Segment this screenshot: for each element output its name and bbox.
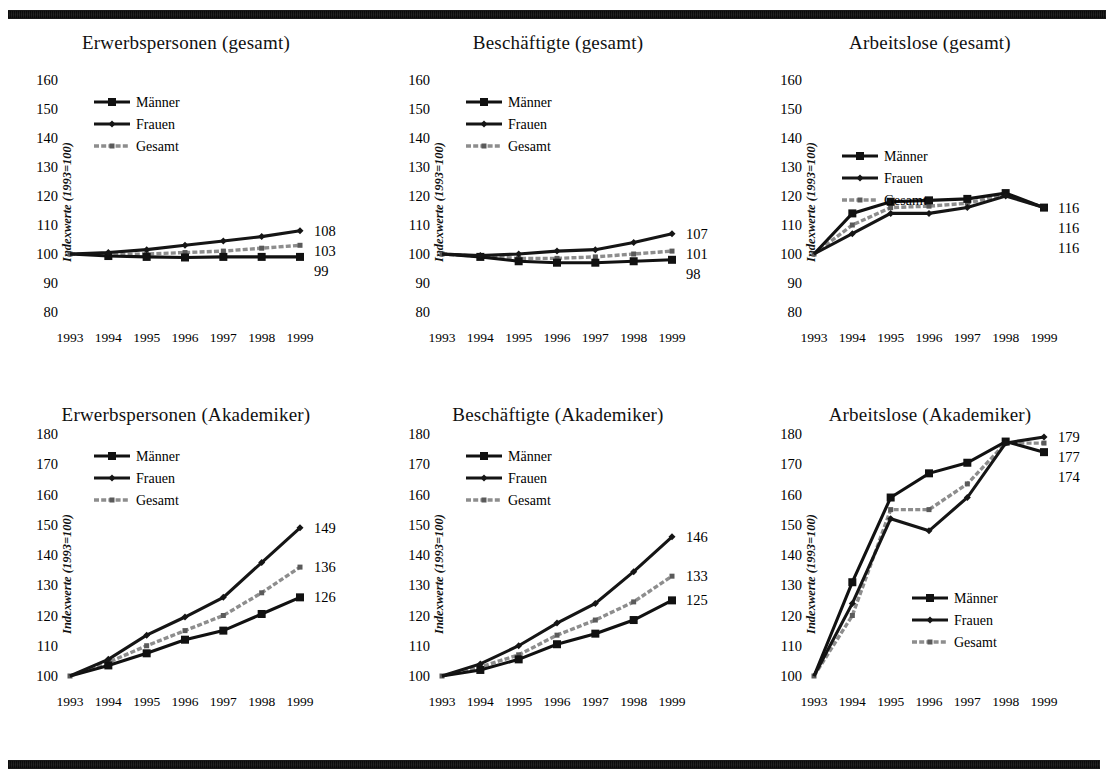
series-end-label: 116 — [1058, 200, 1079, 216]
data-point-marker — [221, 249, 226, 254]
x-tick-label: 1993 — [801, 330, 828, 345]
legend-swatch-marker — [110, 498, 115, 503]
y-tick-label: 120 — [408, 608, 430, 624]
y-tick-label: 140 — [780, 130, 802, 146]
legend-item-total[interactable]: Gesamt — [912, 635, 997, 650]
legend-swatch-marker — [927, 617, 934, 624]
data-point-marker — [515, 655, 523, 663]
series-end-label: 107 — [686, 226, 708, 242]
y-tick-label: 100 — [36, 668, 58, 684]
data-point-marker — [143, 253, 151, 261]
data-point-marker — [143, 649, 151, 657]
y-tick-label: 120 — [36, 608, 58, 624]
legend-item-women[interactable]: Frauen — [842, 171, 923, 186]
x-tick-label: 1994 — [839, 694, 866, 709]
data-point-marker — [221, 613, 226, 618]
legend-item-women[interactable]: Frauen — [466, 471, 547, 486]
legend-label-men: Männer — [508, 449, 552, 464]
y-tick-label: 120 — [408, 188, 430, 204]
data-point-marker — [888, 507, 893, 512]
x-tick-label: 1994 — [467, 330, 494, 345]
data-point-marker — [181, 253, 189, 261]
legend-item-total[interactable]: Gesamt — [842, 193, 927, 208]
x-tick-label: 1993 — [429, 694, 456, 709]
legend-item-total[interactable]: Gesamt — [466, 139, 551, 154]
y-tick-label: 110 — [781, 638, 802, 654]
y-tick-label: 140 — [780, 547, 802, 563]
legend-swatch-marker — [108, 452, 116, 460]
series-end-label: 116 — [1058, 240, 1079, 256]
legend-label-women: Frauen — [136, 471, 175, 486]
y-tick-label: 100 — [36, 246, 58, 262]
data-point-marker — [887, 494, 895, 502]
legend-item-women[interactable]: Frauen — [912, 613, 993, 628]
x-tick-label: 1999 — [287, 694, 314, 709]
series-end-label: 98 — [686, 266, 701, 282]
data-point-marker — [926, 210, 933, 217]
chart-legend: MännerFrauenGesamt — [94, 449, 180, 508]
y-tick-label: 160 — [780, 487, 802, 503]
y-tick-label: 120 — [780, 188, 802, 204]
y-tick-label: 110 — [409, 217, 430, 233]
x-tick-label: 1993 — [57, 330, 84, 345]
data-point-marker — [515, 257, 523, 265]
x-tick-label: 1998 — [248, 330, 275, 345]
y-tick-label: 110 — [781, 217, 802, 233]
y-tick-label: 80 — [44, 304, 59, 320]
legend-label-men: Männer — [136, 95, 180, 110]
data-point-marker — [591, 259, 599, 267]
legend-label-men: Männer — [508, 95, 552, 110]
data-point-marker — [259, 246, 264, 251]
y-tick-label: 140 — [36, 547, 58, 563]
y-tick-label: 160 — [36, 72, 58, 88]
legend-swatch-marker — [482, 144, 487, 149]
legend-swatch-marker — [928, 640, 933, 645]
legend-item-men[interactable]: Männer — [94, 95, 180, 110]
y-tick-label: 180 — [780, 426, 802, 442]
legend-item-men[interactable]: Männer — [466, 95, 552, 110]
chart-svg-arbeitslose-gesamt: 8090100110120130140150160199319941995199… — [744, 22, 1116, 394]
data-point-marker — [848, 578, 856, 586]
data-point-marker — [1041, 434, 1048, 441]
data-point-marker — [1040, 448, 1048, 456]
legend-swatch-marker — [856, 152, 864, 160]
chart-panel-erwerbspersonen-akademiker: Erwerbspersonen (Akademiker)Indexwerte (… — [0, 394, 372, 757]
data-point-marker — [631, 252, 636, 257]
data-point-marker — [927, 507, 932, 512]
y-tick-label: 110 — [37, 638, 58, 654]
legend-item-women[interactable]: Frauen — [94, 117, 175, 132]
legend-swatch-marker — [481, 121, 488, 128]
x-tick-label: 1997 — [954, 330, 981, 345]
series-end-label: 99 — [314, 263, 329, 279]
legend-item-men[interactable]: Männer — [466, 449, 552, 464]
y-tick-label: 180 — [36, 426, 58, 442]
y-tick-label: 110 — [409, 638, 430, 654]
legend-swatch-marker — [480, 98, 488, 106]
legend-item-men[interactable]: Männer — [94, 449, 180, 464]
legend-item-men[interactable]: Männer — [842, 149, 928, 164]
legend-item-men[interactable]: Männer — [912, 591, 998, 606]
legend-label-women: Frauen — [136, 117, 175, 132]
x-tick-label: 1997 — [210, 694, 237, 709]
x-tick-label: 1996 — [172, 330, 199, 345]
legend-item-women[interactable]: Frauen — [466, 117, 547, 132]
y-tick-label: 90 — [416, 275, 431, 291]
data-point-marker — [297, 227, 304, 234]
chart-svg-arbeitslose-akademiker: 1001101201301401501601701801993199419951… — [744, 394, 1116, 757]
chart-panel-erwerbspersonen-gesamt: Erwerbspersonen (gesamt)Indexwerte (1993… — [0, 22, 372, 394]
x-tick-label: 1993 — [801, 694, 828, 709]
legend-item-women[interactable]: Frauen — [94, 471, 175, 486]
y-tick-label: 130 — [36, 577, 58, 593]
data-point-marker — [296, 593, 304, 601]
data-point-marker — [965, 481, 970, 486]
y-tick-label: 120 — [780, 608, 802, 624]
data-point-marker — [630, 616, 638, 624]
legend-item-total[interactable]: Gesamt — [466, 493, 551, 508]
data-point-marker — [258, 610, 266, 618]
legend-item-total[interactable]: Gesamt — [94, 493, 179, 508]
y-tick-label: 100 — [408, 668, 430, 684]
x-tick-label: 1997 — [582, 330, 609, 345]
legend-swatch-marker — [109, 121, 116, 128]
series-end-label: 133 — [686, 568, 708, 584]
legend-item-total[interactable]: Gesamt — [94, 139, 179, 154]
